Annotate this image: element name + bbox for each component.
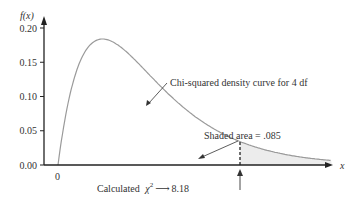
density-curve [58,39,331,165]
y-tick-label: 0.00 [20,160,38,171]
curve-pointer-arrow-icon [146,100,151,106]
y-axis-label: f(x) [20,10,35,22]
y-tick-label: 0.15 [20,57,38,68]
y-tick-label: 0.20 [20,23,38,34]
x-axis-label: x [339,160,345,171]
chi-square-chart: x f(x) 0.000.050.100.150.20 0 Chi-square… [0,0,345,204]
curve-label: Chi-squared density curve for 4 df [170,77,308,88]
shaded-area [240,142,332,165]
shaded-pointer-arrow-icon [198,154,205,159]
x-tick-0: 0 [55,171,60,182]
y-axis-arrow-icon [41,16,47,25]
y-tick-label: 0.05 [20,125,38,136]
shaded-area-label: Shaded area = .085 [204,130,281,141]
y-tick-label: 0.10 [20,91,38,102]
critical-value-arrow-icon [237,169,243,176]
calculated-label: Calculated χ2⟶8.18 [97,181,189,194]
